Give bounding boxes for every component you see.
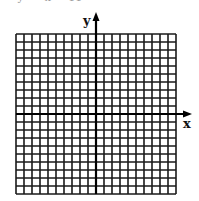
x-axis-label: x (183, 117, 191, 130)
y-axis-label: y (83, 14, 91, 27)
y-axis-arrow-icon (93, 12, 100, 21)
coordinate-grid (0, 0, 199, 201)
